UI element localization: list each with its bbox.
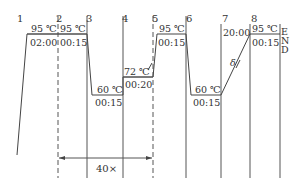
step-5-temp: 95 ℃ bbox=[159, 23, 185, 34]
arrow-left-head-icon bbox=[59, 156, 65, 160]
step-2-time: 00:15 bbox=[60, 37, 87, 48]
step-2-temp: 95 ℃ bbox=[60, 23, 86, 34]
step-number-4: 4 bbox=[122, 13, 128, 24]
step-3-temp: 60 ℃ bbox=[97, 84, 123, 95]
temperature-profile bbox=[17, 34, 280, 155]
step-6-time: 00:15 bbox=[193, 97, 220, 108]
step-5-time: 00:15 bbox=[158, 37, 185, 48]
step-number-7: 7 bbox=[222, 13, 228, 24]
step-number-6: 6 bbox=[186, 13, 192, 24]
step-1-time: 02:00 bbox=[30, 37, 57, 48]
step-4-temp: 72 ℃ bbox=[124, 66, 150, 77]
diagram-svg: 1 2 3 4 5 6 7 8 95 ℃ 02:00 95 ℃ 00:15 60… bbox=[0, 0, 306, 181]
step-7-ramp-label: δ bbox=[230, 57, 236, 68]
step-6-temp: 60 ℃ bbox=[195, 84, 221, 95]
arrow-right-head-icon bbox=[146, 156, 152, 160]
step-7-time: 20:00 bbox=[223, 27, 250, 38]
end-label-d: D bbox=[281, 44, 289, 55]
step-8-temp: 95 ℃ bbox=[252, 23, 278, 34]
step-3-time: 00:15 bbox=[95, 97, 122, 108]
step-number-5: 5 bbox=[152, 13, 158, 24]
step-number-1: 1 bbox=[17, 13, 23, 24]
cycle-count-label: 40× bbox=[96, 163, 117, 174]
pcr-profile-diagram: 1 2 3 4 5 6 7 8 95 ℃ 02:00 95 ℃ 00:15 60… bbox=[0, 0, 306, 181]
step-number-3: 3 bbox=[86, 13, 92, 24]
step-4-time: 00:20 bbox=[125, 79, 152, 90]
step-8-time: 00:15 bbox=[252, 37, 279, 48]
step-1-temp: 95 ℃ bbox=[31, 23, 57, 34]
